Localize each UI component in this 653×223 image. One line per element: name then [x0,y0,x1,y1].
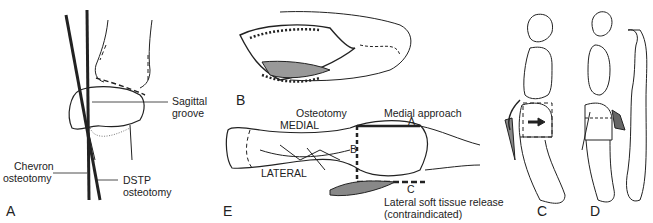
lateral-label: LATERAL [261,167,307,179]
panel-label-c: C [537,203,547,219]
panel-a-leaders [53,102,168,180]
panel-d-drawing [582,12,647,202]
panel-label-e: E [223,203,232,219]
chevron-osteotomy-label-2: osteotomy [3,172,51,184]
medial-label: MEDIAL [280,119,319,131]
panel-e-drawing [226,121,480,196]
dstp-osteotomy-label-2: osteotomy [123,186,171,198]
lateral-release-label-2: (contraindicated) [384,208,462,220]
panel-label-d: D [590,203,600,219]
medial-approach-label: Medial approach [384,107,462,119]
panel-c-drawing [505,14,565,203]
marker-a-label: A [408,115,415,127]
panel-b-drawing [240,12,411,82]
panel-a-drawing [69,20,152,160]
dstp-osteotomy-label-1: DSTP [123,174,151,186]
marker-b-label: B [350,143,357,155]
osteotomy-label: Osteotomy [296,107,347,119]
lateral-release-label-1: Lateral soft tissue release [384,196,504,208]
osteotomy-lines [66,10,100,200]
marker-c-label: C [407,183,415,195]
sagittal-groove-label-1: Sagittal [172,95,207,107]
panel-label-b: B [236,92,245,108]
sagittal-groove-label-2: groove [172,107,204,119]
panel-label-a: A [6,203,15,219]
chevron-osteotomy-label-1: Chevron [14,160,54,172]
